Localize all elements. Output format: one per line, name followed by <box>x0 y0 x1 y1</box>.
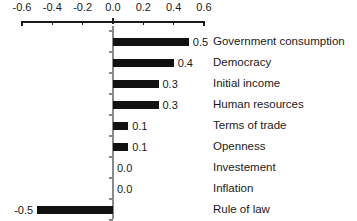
x-axis-tick-mark <box>143 21 145 25</box>
bar-row: 0.0Inflation <box>0 177 357 198</box>
bar-value-label: 0.1 <box>132 120 147 132</box>
bar <box>113 143 128 151</box>
bar-row: 0.1Openness <box>0 135 357 156</box>
x-axis-tick-mark <box>173 21 175 25</box>
bar <box>113 80 159 88</box>
bar-row: 0.5Government consumption <box>0 30 357 51</box>
bar <box>113 59 174 67</box>
category-label: Openness <box>213 140 265 153</box>
x-axis-tick-label: 0.6 <box>184 1 224 13</box>
bar <box>113 101 159 109</box>
bar-value-label: 0.3 <box>163 99 178 111</box>
bar-row: 0.1Terms of trade <box>0 114 357 135</box>
bar-value-label: -0.5 <box>0 204 33 216</box>
category-label: Rule of law <box>213 203 270 216</box>
category-label: Democracy <box>213 56 271 69</box>
category-label: Government consumption <box>213 35 345 48</box>
bar <box>113 122 128 130</box>
category-label: Terms of trade <box>213 119 287 132</box>
horizontal-bar-chart: -0.6-0.4-0.20.00.20.40.6 0.5Government c… <box>0 0 357 221</box>
bar <box>113 38 189 46</box>
category-label: Initial income <box>213 77 280 90</box>
bar-row: 0.3Initial income <box>0 72 357 93</box>
category-label: Inflation <box>213 182 253 195</box>
bar-value-label: 0.1 <box>132 141 147 153</box>
x-axis-tick-mark <box>112 18 114 24</box>
bar-row: 0.4Democracy <box>0 51 357 72</box>
bar-value-label: 0.4 <box>178 57 193 69</box>
x-axis-tick-mark <box>52 21 54 25</box>
category-axis-tick-mark <box>109 219 113 221</box>
bar-value-label: 0.0 <box>117 162 132 174</box>
bar <box>37 206 113 214</box>
chart-x-axis: -0.6-0.4-0.20.00.20.40.6 <box>0 0 357 26</box>
category-label: Investement <box>213 161 276 174</box>
bar-value-label: 0.3 <box>163 78 178 90</box>
bar-value-label: 0.0 <box>117 183 132 195</box>
bar-value-label: 0.5 <box>193 36 208 48</box>
x-axis-tick-mark <box>82 21 84 25</box>
bar-row: 0.0Investement <box>0 156 357 177</box>
bar-row: 0.3Human resources <box>0 93 357 114</box>
category-label: Human resources <box>213 98 304 111</box>
plot-area: 0.5Government consumption0.4Democracy0.3… <box>0 26 357 221</box>
bar-row: -0.5Rule of law <box>0 198 357 219</box>
